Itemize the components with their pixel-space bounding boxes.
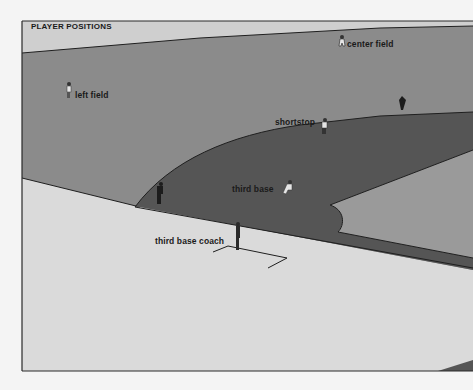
label-third-base-coach: third base coach <box>155 236 224 246</box>
label-third-base: third base <box>232 184 274 194</box>
label-center-field: center field <box>347 39 394 49</box>
label-left-field: left field <box>75 90 109 100</box>
diagram-title: PLAYER POSITIONS <box>31 22 112 31</box>
field-diagram <box>0 0 473 390</box>
label-shortstop: shortstop <box>275 117 315 127</box>
